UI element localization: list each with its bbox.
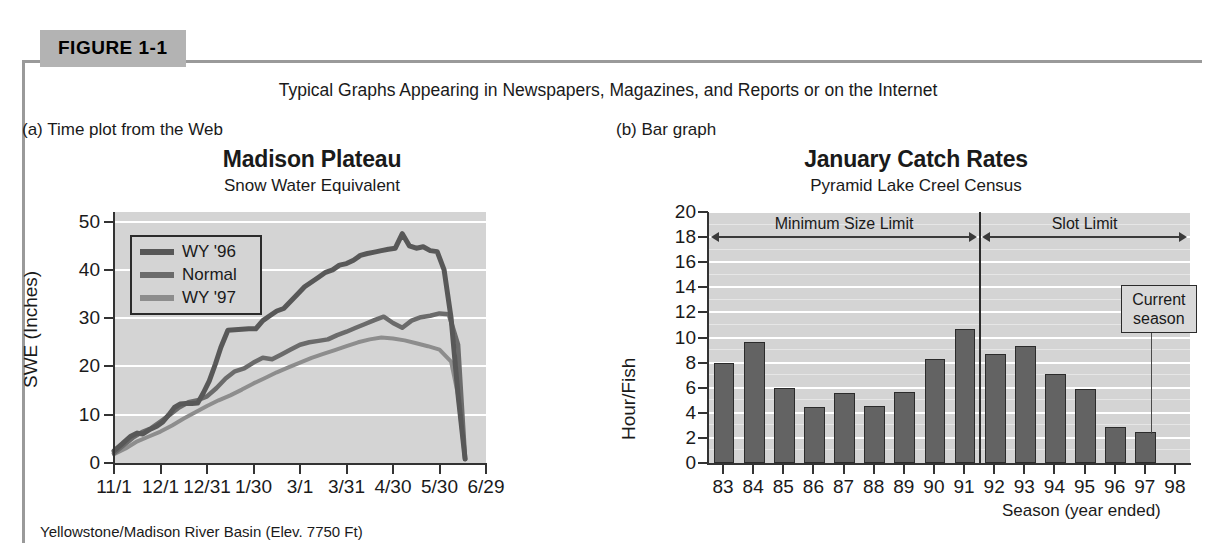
time-plot-panel: Madison Plateau Snow Water Equivalent SW… xyxy=(22,140,602,543)
gridline-16 xyxy=(708,261,1190,263)
x-tick-95 xyxy=(1084,465,1086,474)
x-tick-88 xyxy=(873,465,875,474)
gridline-14 xyxy=(708,286,1190,288)
annotation-slot-limit-arrow-right xyxy=(1179,232,1187,242)
x-tick-6/29 xyxy=(485,465,487,474)
y-tick-label-16: 16 xyxy=(652,252,696,271)
annotation-minimum-size-limit-label: Minimum Size Limit xyxy=(711,215,977,233)
y-tick-label-30: 30 xyxy=(52,308,100,327)
bar-86 xyxy=(804,407,825,463)
x-tick-92 xyxy=(993,465,995,474)
panel-a-label: (a) Time plot from the Web xyxy=(22,120,223,140)
gridline-minor-17 xyxy=(708,249,1190,250)
annotation-minimum-size-limit-line xyxy=(718,236,970,238)
bar-chart-x-axis-title: Season (year ended) xyxy=(1002,501,1161,521)
x-tick-84 xyxy=(752,465,754,474)
regulation-divider xyxy=(979,212,981,463)
legend-label-normal: Normal xyxy=(182,264,237,286)
annotation-slot-limit-label: Slot Limit xyxy=(982,215,1187,233)
panel-b-label: (b) Bar graph xyxy=(616,120,716,140)
legend-label-wy96: WY '96 xyxy=(182,241,236,263)
y-tick-label-18: 18 xyxy=(652,227,696,246)
x-tick-5/30 xyxy=(439,465,441,474)
x-tick-3/1 xyxy=(299,465,301,474)
line-series-normal xyxy=(114,313,465,459)
y-tick-label-8: 8 xyxy=(652,353,696,372)
bar-87 xyxy=(834,393,855,463)
bar-97 xyxy=(1135,432,1156,463)
bar-chart-y-axis-title: Hour/Fish xyxy=(618,358,640,440)
line-series-wy-97 xyxy=(114,338,465,460)
y-tick-label-50: 50 xyxy=(52,212,100,231)
gridline-12 xyxy=(708,311,1190,313)
x-tick-83 xyxy=(722,465,724,474)
line-chart-legend: WY '96 Normal WY '97 xyxy=(130,235,262,315)
legend-swatch-wy97 xyxy=(140,295,174,301)
x-tick-90 xyxy=(933,465,935,474)
bar-83 xyxy=(714,363,735,463)
figure-tag: FIGURE 1-1 xyxy=(40,30,186,67)
gridline-minor-13 xyxy=(708,299,1190,300)
gridline-20 xyxy=(708,211,1190,213)
x-tick-4/30 xyxy=(392,465,394,474)
bar-chart-x-axis xyxy=(707,463,1191,465)
x-tick-3/31 xyxy=(346,465,348,474)
x-tick-91 xyxy=(963,465,965,474)
x-tick-96 xyxy=(1114,465,1116,474)
bar-91 xyxy=(955,329,976,463)
current-season-callout: Current season xyxy=(1121,285,1197,333)
x-tick-85 xyxy=(782,465,784,474)
x-tick-89 xyxy=(903,465,905,474)
bar-92 xyxy=(985,354,1006,463)
x-tick-12/31 xyxy=(206,465,208,474)
y-tick-label-20: 20 xyxy=(52,356,100,375)
figure-rule-horizontal xyxy=(22,60,1202,63)
y-tick-label-2: 2 xyxy=(652,428,696,447)
bar-95 xyxy=(1075,389,1096,463)
annotation-minimum-size-limit-arrow-left xyxy=(711,232,719,242)
x-tick-label-6/29: 6/29 xyxy=(456,477,516,496)
annotation-slot-limit-arrow-left xyxy=(982,232,990,242)
gridline-minor-11 xyxy=(708,324,1190,325)
y-tick-label-10: 10 xyxy=(652,328,696,347)
gridline-minor-7 xyxy=(708,374,1190,375)
x-tick-93 xyxy=(1023,465,1025,474)
x-tick-12/1 xyxy=(160,465,162,474)
annotation-slot-limit-line xyxy=(989,236,1180,238)
y-tick-label-12: 12 xyxy=(652,302,696,321)
y-tick-label-4: 4 xyxy=(652,403,696,422)
bar-89 xyxy=(894,392,915,463)
x-tick-label-98: 98 xyxy=(1155,477,1195,496)
bar-chart-plot-area xyxy=(708,212,1190,463)
legend-swatch-normal xyxy=(140,272,174,278)
figure-caption: Typical Graphs Appearing in Newspapers, … xyxy=(0,80,1216,101)
x-tick-87 xyxy=(843,465,845,474)
x-tick-98 xyxy=(1174,465,1176,474)
bar-chart-y-axis xyxy=(707,212,709,465)
bar-88 xyxy=(864,406,885,463)
line-chart-x-axis-title: Yellowstone/Madison River Basin (Elev. 7… xyxy=(40,523,363,540)
gridline-minor-15 xyxy=(708,274,1190,275)
bar-chart-subtitle: Pyramid Lake Creel Census xyxy=(616,176,1216,196)
legend-swatch-wy96 xyxy=(140,249,174,255)
current-season-leader-line xyxy=(1151,333,1153,434)
bar-85 xyxy=(774,388,795,463)
gridline-minor-9 xyxy=(708,349,1190,350)
x-tick-97 xyxy=(1144,465,1146,474)
bar-84 xyxy=(744,342,765,463)
bar-graph-panel: January Catch Rates Pyramid Lake Creel C… xyxy=(616,140,1216,543)
bar-chart-title: January Catch Rates xyxy=(616,146,1216,173)
x-tick-94 xyxy=(1053,465,1055,474)
y-tick-label-20: 20 xyxy=(652,202,696,221)
legend-label-wy97: WY '97 xyxy=(182,287,236,309)
y-tick-label-40: 40 xyxy=(52,260,100,279)
bar-94 xyxy=(1045,374,1066,463)
y-tick-label-6: 6 xyxy=(652,378,696,397)
y-tick-label-0: 0 xyxy=(52,453,100,472)
annotation-minimum-size-limit-arrow-right xyxy=(969,232,977,242)
y-tick-label-10: 10 xyxy=(52,405,100,424)
bar-93 xyxy=(1015,346,1036,463)
y-tick-label-0: 0 xyxy=(652,453,696,472)
line-chart-y-axis xyxy=(113,212,115,465)
bar-96 xyxy=(1105,427,1126,463)
